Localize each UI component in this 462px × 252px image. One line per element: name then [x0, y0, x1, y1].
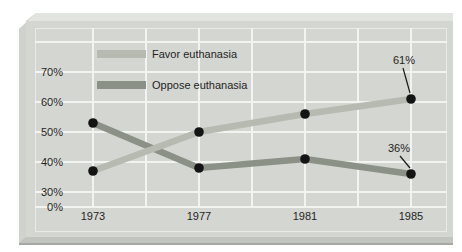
legend-label-favor: Favor euthanasia [152, 48, 238, 60]
legend-swatch-favor [97, 50, 146, 58]
data-point [300, 109, 310, 119]
data-point [300, 154, 310, 164]
legend-label-oppose: Oppose euthanasia [152, 79, 248, 91]
y-axis-tick-label: 40% [41, 156, 63, 168]
favor-end-value-label: 61% [393, 54, 415, 66]
data-point [406, 169, 416, 179]
data-point [194, 163, 204, 173]
x-axis-year-label: 1977 [187, 210, 211, 222]
oppose-end-value-label: 36% [388, 142, 410, 154]
x-axis-year-label: 1973 [81, 210, 105, 222]
panel-face [26, 21, 453, 237]
euthanasia-opinion-trend-chart: 70%60%50%40%30%0% 1973197719811985 Favor… [0, 0, 462, 252]
y-axis-tick-label: 30% [41, 186, 63, 198]
panel-top-bevel [26, 13, 453, 21]
x-axis-year-label: 1981 [293, 210, 317, 222]
y-axis-tick-label: 60% [41, 96, 63, 108]
y-axis-tick-label: 0% [47, 201, 63, 213]
x-axis-year-label: 1985 [399, 210, 423, 222]
data-point [88, 118, 98, 128]
data-point [88, 166, 98, 176]
panel-bottom-bevel [19, 237, 453, 243]
y-axis-tick-label: 70% [41, 66, 63, 78]
chart-figure: 70%60%50%40%30%0% 1973197719811985 Favor… [0, 0, 462, 252]
y-axis-tick-label: 50% [41, 126, 63, 138]
data-point [406, 94, 416, 104]
data-point [194, 127, 204, 137]
legend-swatch-oppose [97, 81, 146, 89]
